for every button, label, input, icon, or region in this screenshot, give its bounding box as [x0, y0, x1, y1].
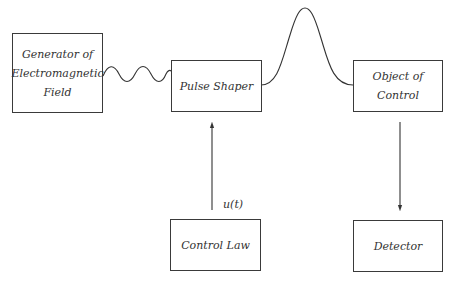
detector-node: Detector: [353, 220, 443, 272]
generator-label-line-1: Generator of: [11, 45, 103, 64]
object-of-control-node: Object of Control: [353, 60, 443, 112]
object-label-line-1: Object of: [373, 67, 424, 86]
generator-label-line-2: Electromagnetic: [11, 64, 103, 83]
control-law-label: Control Law: [181, 236, 250, 255]
diagram-canvas: Generator of Electromagnetic Field Pulse…: [0, 0, 456, 285]
sine-wave-connector: [103, 67, 171, 82]
generator-node: Generator of Electromagnetic Field: [12, 33, 103, 113]
pulse-shaper-label: Pulse Shaper: [180, 77, 254, 96]
pulse-shaper-node: Pulse Shaper: [171, 60, 262, 112]
signal-label-u-t: u(t): [223, 198, 243, 211]
object-label-line-2: Control: [373, 86, 424, 105]
control-law-node: Control Law: [170, 219, 261, 271]
gaussian-pulse-connector: [261, 8, 353, 85]
detector-label: Detector: [374, 237, 423, 256]
generator-label-line-3: Field: [11, 83, 103, 102]
